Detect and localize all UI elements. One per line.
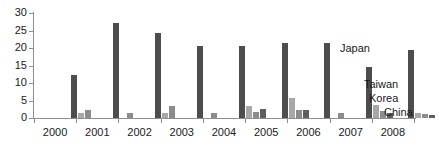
bar-taiwan-2005 [289, 98, 295, 118]
annotation-japan: Japan [340, 42, 370, 54]
y-axis-tick-label: 10 [0, 77, 27, 88]
annotation-china: China [384, 106, 413, 118]
x-axis-tick [287, 119, 288, 123]
bar-group [195, 13, 237, 118]
y-axis-tick [29, 31, 34, 32]
bar-korea-2006 [338, 113, 344, 118]
x-axis-tick [76, 119, 77, 123]
bar-japan-2005 [282, 43, 288, 118]
x-axis-tick [203, 119, 204, 123]
bar-korea-2000 [85, 110, 91, 118]
bar-china-2005 [303, 110, 309, 118]
x-axis-tick [414, 119, 415, 123]
y-axis-tick [29, 101, 34, 102]
bar-taiwan-2007 [373, 105, 379, 118]
bar-china-2008 [429, 115, 435, 119]
annotation-taiwan: Taiwan [364, 78, 398, 90]
bar-group [279, 13, 321, 118]
bar-japan-2000 [71, 75, 77, 118]
bar-taiwan-2008 [415, 113, 421, 118]
y-axis-tick-label: 20 [0, 42, 27, 53]
x-axis-tick [161, 119, 162, 123]
x-axis-tick-label: 2008 [368, 126, 418, 138]
x-axis-line [33, 118, 416, 119]
bar-group [406, 13, 439, 118]
y-axis-tick-label: 30 [0, 7, 27, 18]
x-axis-tick [34, 119, 35, 123]
y-axis-tick [29, 48, 34, 49]
y-axis-tick-label: 25 [0, 25, 27, 36]
y-axis-tick [29, 13, 34, 14]
bar-korea-2002 [169, 106, 175, 118]
x-axis-tick [330, 119, 331, 123]
bar-china-2004 [260, 109, 266, 118]
bar-korea-2005 [296, 110, 302, 118]
y-axis-tick-label: 0 [0, 112, 27, 123]
x-axis-tick [245, 119, 246, 123]
bar-group [321, 13, 363, 118]
bar-korea-2008 [422, 114, 428, 118]
bar-taiwan-2004 [246, 106, 252, 118]
bar-group [68, 13, 110, 118]
x-axis-tick [372, 119, 373, 123]
annotation-korea: Korea [369, 92, 398, 104]
y-axis-tick-label: 15 [0, 60, 27, 71]
plot-area [34, 13, 414, 118]
y-axis-tick [29, 118, 34, 119]
bar-group [237, 13, 279, 118]
x-axis-tick [118, 119, 119, 123]
bar-japan-2004 [239, 46, 245, 118]
y-axis-labels: 051015202530 [0, 0, 27, 151]
bar-japan-2006 [324, 43, 330, 118]
y-axis-tick [29, 66, 34, 67]
bar-group [152, 13, 194, 118]
bar-taiwan-2000 [78, 113, 84, 118]
bar-taiwan-2002 [162, 113, 168, 118]
bar-japan-2003 [197, 46, 203, 118]
bar-korea-2001 [127, 113, 133, 118]
bar-korea-2004 [253, 112, 259, 118]
bar-japan-2002 [155, 33, 161, 118]
bar-japan-2001 [113, 23, 119, 118]
y-axis-tick-label: 5 [0, 95, 27, 106]
bar-group [110, 13, 152, 118]
bar-korea-2003 [211, 113, 217, 118]
y-axis-tick [29, 83, 34, 84]
